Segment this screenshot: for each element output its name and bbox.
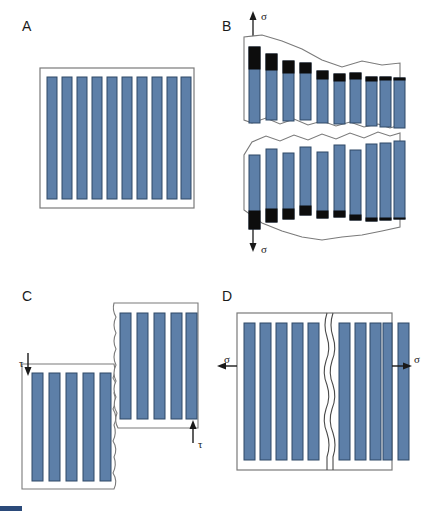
fiber-group-lower-b bbox=[249, 141, 405, 229]
fiber-group-right-d bbox=[339, 323, 392, 460]
bottom-edge-marker bbox=[0, 506, 22, 511]
sigma-arrow-bottom-b bbox=[250, 227, 257, 252]
sigma-label-right-d: σ bbox=[414, 353, 420, 365]
fiber-extra-right-d bbox=[398, 323, 409, 460]
fiber-group-upper-b bbox=[249, 47, 405, 128]
tau-label-left-c: τ bbox=[19, 357, 23, 369]
fiber-group-left-d bbox=[244, 323, 319, 460]
sigma-label-top-b: σ bbox=[261, 10, 267, 22]
panel-d-graphic bbox=[215, 295, 430, 510]
sigma-label-left-d: σ bbox=[224, 353, 230, 365]
panel-b-graphic bbox=[222, 5, 432, 255]
sigma-arrow-top-b bbox=[250, 11, 257, 37]
figure-canvas: A B bbox=[0, 0, 433, 514]
panel-a-graphic bbox=[20, 55, 220, 245]
panel-c-graphic bbox=[8, 295, 218, 510]
tau-label-right-c: τ bbox=[198, 438, 202, 450]
panel-letter-a: A bbox=[22, 18, 31, 34]
sigma-label-bottom-b: σ bbox=[261, 243, 267, 255]
